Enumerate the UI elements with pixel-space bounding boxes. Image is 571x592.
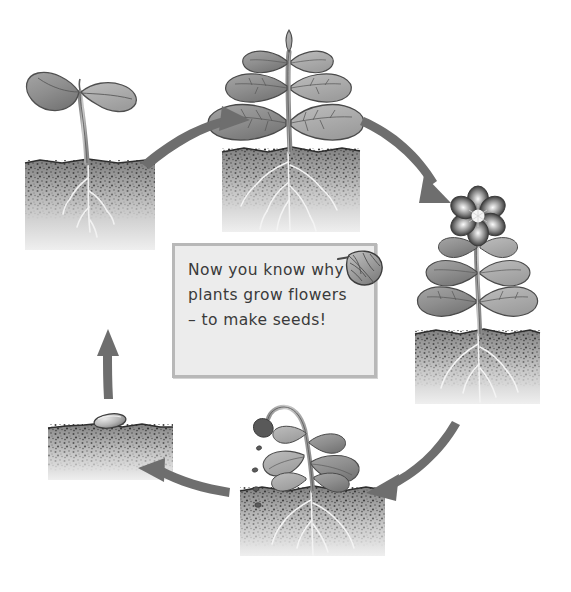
flower-head [447,186,509,246]
cotyledon-leaf-right [81,83,136,112]
stage-young-plant [208,30,364,232]
soil-block-young [222,147,360,232]
stage-seedling [25,72,155,250]
seeding-leaf-b [309,434,346,453]
stage-seeding-plant [240,407,385,556]
arrow-flowering-to-seeding [366,421,460,501]
stage-flowering-plant [415,186,540,404]
leaf-icon [336,248,384,290]
soil-block-seedling [25,159,155,250]
arrow-seed-to-seedling [97,329,119,399]
arrow-young-to-flowering [360,117,451,203]
seeding-leaf-a [273,426,306,443]
leaf-lower-right [291,105,364,141]
seed-pod [253,419,273,438]
seeding-leaf-c [263,451,304,476]
callout-line-3: – to make seeds! [188,308,363,333]
leaf-mid-right [291,74,351,102]
flower-leaf-lower-right [480,287,538,316]
apical-bud [286,30,292,52]
flower-leaf-mid-right [480,261,530,286]
flower-leaf-mid-left [426,261,477,286]
flower-leaf-lower-left [417,287,476,316]
leaf-mid-left [226,74,287,102]
